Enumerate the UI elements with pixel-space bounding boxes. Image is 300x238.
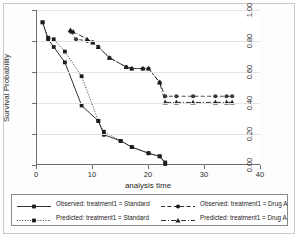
legend-item[interactable]: Observed: treatment1 = Drug A bbox=[160, 197, 287, 210]
legend-key-circle-icon bbox=[160, 198, 196, 209]
data-point-square bbox=[32, 205, 36, 209]
data-point-square bbox=[147, 151, 151, 155]
chart-legend: Observed: treatment1 = StandardObserved:… bbox=[11, 194, 288, 226]
gridline bbox=[37, 103, 260, 104]
x-tick-label: 30 bbox=[200, 170, 208, 179]
data-point-circle bbox=[213, 94, 217, 98]
legend-label: Predicted: treatment1 = Drug A bbox=[200, 214, 287, 221]
data-point-square bbox=[63, 60, 67, 64]
y-tick bbox=[32, 134, 36, 135]
gridline bbox=[37, 41, 260, 42]
y-tick bbox=[32, 72, 36, 73]
x-tick-label: 20 bbox=[144, 170, 152, 179]
x-tick bbox=[148, 165, 149, 169]
data-point-square bbox=[163, 162, 167, 166]
legend-key-triangle-icon bbox=[160, 212, 196, 223]
data-point-circle bbox=[176, 204, 180, 208]
x-tick bbox=[92, 165, 93, 169]
legend-label: Observed: treatment1 = Standard bbox=[56, 200, 150, 207]
data-point-square bbox=[119, 139, 123, 143]
data-point-square bbox=[158, 154, 162, 158]
series-1 bbox=[41, 20, 167, 165]
legend-item[interactable]: Predicted: treatment1 = Drug A bbox=[160, 211, 287, 224]
y-tick-label: 0.80 bbox=[245, 34, 254, 49]
legend-item[interactable]: Predicted: treatment1 = Standard bbox=[16, 211, 149, 224]
data-point-circle bbox=[224, 94, 228, 98]
y-tick-label: 0.60 bbox=[245, 65, 254, 80]
legend-key-square-icon bbox=[16, 198, 52, 209]
x-tick bbox=[260, 165, 261, 169]
data-point-square bbox=[46, 36, 50, 40]
x-axis-title: analysis time bbox=[125, 181, 171, 190]
y-tick-label: 0.00 bbox=[245, 158, 254, 173]
data-point-square bbox=[41, 20, 45, 24]
series-0 bbox=[41, 20, 167, 164]
y-tick bbox=[32, 10, 36, 11]
series-3 bbox=[68, 27, 235, 104]
data-point-square bbox=[80, 104, 84, 108]
gridline bbox=[37, 72, 260, 73]
x-tick-label: 40 bbox=[256, 170, 264, 179]
gridline bbox=[37, 10, 260, 11]
series-line bbox=[43, 22, 166, 162]
data-point-square bbox=[102, 130, 106, 134]
gridline bbox=[37, 134, 260, 135]
data-point-triangle bbox=[175, 218, 180, 223]
series-2 bbox=[68, 29, 234, 98]
data-point-square bbox=[130, 145, 134, 149]
legend-label: Predicted: treatment1 = Standard bbox=[56, 214, 149, 221]
survival-plot-figure: 0.000.200.400.600.801.00 010203040 analy… bbox=[0, 0, 300, 238]
data-point-circle bbox=[191, 94, 195, 98]
x-tick bbox=[36, 165, 37, 169]
y-tick-label: 0.20 bbox=[245, 127, 254, 142]
legend-label: Observed: treatment1 = Drug A bbox=[200, 200, 287, 207]
y-tick-label: 0.40 bbox=[245, 96, 254, 111]
plot-area bbox=[36, 10, 260, 165]
y-tick-label: 1.00 bbox=[245, 3, 254, 18]
plot-wrapper: 0.000.200.400.600.801.00 010203040 analy… bbox=[36, 10, 260, 165]
legend-key-square-icon bbox=[16, 212, 52, 223]
series-line bbox=[43, 22, 166, 164]
y-axis-title: Survival Probability bbox=[2, 53, 11, 121]
x-tick-label: 10 bbox=[88, 170, 96, 179]
series-layer bbox=[37, 10, 260, 164]
data-point-square bbox=[52, 45, 56, 49]
data-point-square bbox=[96, 119, 100, 123]
y-tick bbox=[32, 103, 36, 104]
data-point-circle bbox=[230, 94, 234, 98]
x-tick bbox=[204, 165, 205, 169]
data-point-square bbox=[80, 74, 84, 78]
data-point-square bbox=[32, 219, 36, 223]
x-tick-label: 0 bbox=[34, 170, 38, 179]
data-point-square bbox=[63, 50, 67, 54]
y-tick bbox=[32, 41, 36, 42]
legend-item[interactable]: Observed: treatment1 = Standard bbox=[16, 197, 150, 210]
data-point-circle bbox=[174, 94, 178, 98]
